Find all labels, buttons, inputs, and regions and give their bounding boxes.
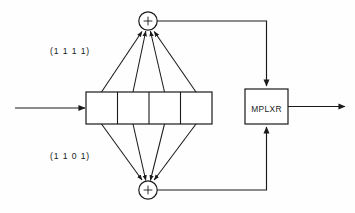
top-feedback-path: [157, 21, 266, 86]
top-tap-wire-4: [154, 32, 196, 93]
bottom-adder: [139, 181, 157, 199]
top-adder: [139, 12, 157, 30]
top-tap-wire-1: [102, 32, 143, 93]
top-feedback-wire: [157, 21, 266, 86]
bottom-tap-wire-4: [154, 124, 196, 180]
diagram-canvas: MPLXR (1 1 1 1) (1 1 0 1): [0, 0, 355, 213]
bottom-tap-polynomial-label: (1 1 0 1): [50, 151, 90, 161]
top-tap-polynomial-label: (1 1 1 1): [50, 46, 90, 56]
bottom-feedback-wire: [157, 127, 266, 190]
bottom-tap-wire-3: [150, 124, 164, 181]
shift-register: [86, 92, 212, 124]
bottom-tap-wires: [102, 124, 197, 181]
bottom-feedback-path: [157, 127, 266, 190]
lfsr-multiplexer-diagram: MPLXR (1 1 1 1) (1 1 0 1): [0, 0, 355, 213]
top-tap-wires: [102, 31, 197, 92]
bottom-tap-wire-2: [133, 124, 146, 181]
multiplexer-box: MPLXR: [245, 89, 288, 124]
top-tap-wire-3: [150, 31, 164, 92]
multiplexer-label: MPLXR: [251, 104, 282, 114]
top-tap-wire-2: [133, 31, 146, 92]
bottom-tap-wire-1: [102, 124, 143, 180]
